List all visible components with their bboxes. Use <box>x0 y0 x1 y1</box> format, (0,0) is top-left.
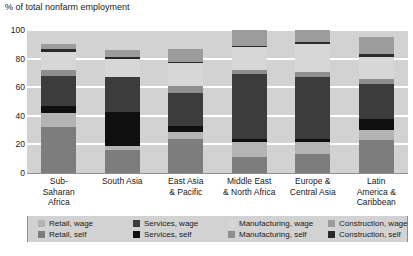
legend-swatch-icon <box>228 220 235 227</box>
bar-segment <box>41 76 76 106</box>
bar-segment <box>232 74 267 138</box>
bar-segment <box>41 113 76 127</box>
bar-segment <box>295 154 330 173</box>
plot-area <box>27 30 408 173</box>
bar-segment <box>232 30 267 46</box>
x-axis-category-label: South Asia <box>91 176 155 187</box>
bar-segment <box>295 77 330 140</box>
x-axis-category-label: Middle East& North Africa <box>218 176 282 197</box>
legend-swatch-icon <box>133 220 140 227</box>
bar-segment <box>168 139 203 173</box>
legend-label: Construction, self <box>339 230 401 239</box>
legend-label: Services, wage <box>144 219 198 228</box>
bar-segment <box>41 52 76 71</box>
bar-segment <box>105 77 140 111</box>
legend-item[interactable]: Services, self <box>133 230 192 239</box>
bar-segment <box>41 127 76 173</box>
stacked-bar-chart: % of total nonfarm employment 0204060801… <box>0 0 413 256</box>
legend-item[interactable]: Construction, wage <box>328 219 407 228</box>
bar-segment <box>232 157 267 173</box>
legend-label: Retail, self <box>49 230 86 239</box>
gridline <box>27 143 408 145</box>
legend-item[interactable]: Construction, self <box>328 230 401 239</box>
bar-segment <box>295 142 330 155</box>
gridline <box>27 115 408 117</box>
legend-row: Retail, selfServices, selfManufacturing,… <box>28 230 407 241</box>
x-axis-category-label-line: & Pacific <box>154 187 218 198</box>
bar-segment <box>105 59 140 78</box>
y-axis-tick-label: 80 <box>1 55 25 63</box>
legend-swatch-icon <box>328 220 335 227</box>
legend-swatch-icon <box>133 231 140 238</box>
x-axis-category-label-line: Latin <box>345 176 409 187</box>
legend-item[interactable]: Manufacturing, self <box>228 230 307 239</box>
legend-label: Construction, wage <box>339 219 407 228</box>
bar-segment <box>168 93 203 126</box>
legend-label: Services, self <box>144 230 192 239</box>
x-axis-category-label: East Asia& Pacific <box>154 176 218 197</box>
x-axis-category-label-line: Sub- <box>27 176 91 187</box>
x-axis-category-label-line: Africa <box>27 197 91 208</box>
bar-segment <box>232 142 267 158</box>
x-axis-category-label-line: America & <box>345 187 409 198</box>
bar-segment <box>168 49 203 62</box>
legend-item[interactable]: Services, wage <box>133 219 198 228</box>
y-axis-tick-label: 60 <box>1 83 25 91</box>
bar-segment <box>359 84 394 118</box>
stacked-bar[interactable] <box>168 30 203 173</box>
stacked-bar[interactable] <box>105 30 140 173</box>
gridline <box>27 29 408 31</box>
legend-item[interactable]: Retail, wage <box>38 219 93 228</box>
bar-column <box>295 30 330 173</box>
bar-segment <box>105 112 140 146</box>
legend-label: Manufacturing, wage <box>239 219 313 228</box>
gridline <box>27 58 408 60</box>
x-axis-category-label-line: Central Asia <box>281 187 345 198</box>
chart-legend: Retail, wageServices, wageManufacturing,… <box>27 216 408 242</box>
y-axis: 020406080100 <box>0 0 25 256</box>
legend-label: Retail, wage <box>49 219 93 228</box>
legend-item[interactable]: Retail, self <box>38 230 86 239</box>
bar-column <box>232 30 267 173</box>
stacked-bar[interactable] <box>232 30 267 173</box>
bar-segment <box>359 57 394 78</box>
stacked-bar[interactable] <box>41 30 76 173</box>
bar-segment <box>105 150 140 173</box>
x-axis-category-label-line: East Asia <box>154 176 218 187</box>
legend-item[interactable]: Manufacturing, wage <box>228 219 313 228</box>
stacked-bar[interactable] <box>295 30 330 173</box>
legend-swatch-icon <box>38 231 45 238</box>
bar-segment <box>295 30 330 41</box>
bar-column <box>41 30 76 173</box>
y-axis-tick-label: 20 <box>1 140 25 148</box>
x-axis-category-label-line: Middle East <box>218 176 282 187</box>
y-axis-tick-label: 100 <box>1 26 25 34</box>
bar-segment <box>232 47 267 70</box>
bar-segment <box>295 44 330 73</box>
y-axis-tick-label: 0 <box>1 169 25 177</box>
legend-swatch-icon <box>328 231 335 238</box>
x-axis-category-label-line: Caribbean <box>345 197 409 208</box>
x-axis-category-label: Europe &Central Asia <box>281 176 345 197</box>
bar-segment <box>359 119 394 130</box>
bar-segment <box>168 63 203 86</box>
bar-segment <box>168 132 203 139</box>
bar-segment <box>359 130 394 140</box>
legend-swatch-icon <box>38 220 45 227</box>
bar-segment <box>359 140 394 173</box>
bar-column <box>359 30 394 173</box>
x-axis-category-label: Sub-SaharanAfrica <box>27 176 91 208</box>
gridline <box>27 86 408 88</box>
x-axis-category-label: LatinAmerica &Caribbean <box>345 176 409 208</box>
x-axis-category-label-line: Saharan <box>27 187 91 198</box>
stacked-bar[interactable] <box>359 30 394 173</box>
legend-label: Manufacturing, self <box>239 230 307 239</box>
legend-swatch-icon <box>228 231 235 238</box>
bar-segment <box>168 86 203 93</box>
x-axis-category-label-line: Europe & <box>281 176 345 187</box>
legend-row: Retail, wageServices, wageManufacturing,… <box>28 219 407 230</box>
bar-column <box>105 30 140 173</box>
x-axis-line <box>27 173 408 174</box>
bar-column <box>168 30 203 173</box>
x-axis-category-label-line: & North Africa <box>218 187 282 198</box>
